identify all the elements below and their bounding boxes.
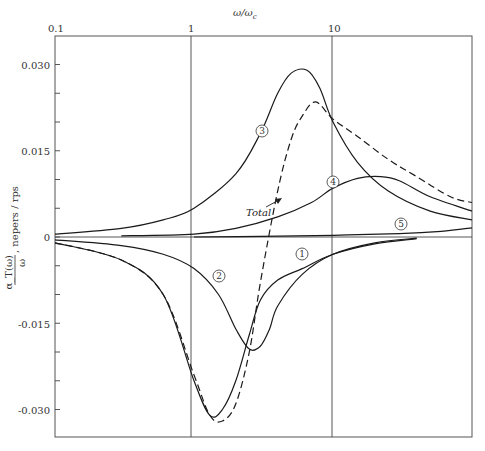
x-tick-labels: 0.1 1 10 bbox=[48, 23, 341, 34]
y-axis-units: , nepers / rps bbox=[9, 186, 20, 253]
y-ticks bbox=[55, 65, 60, 410]
y-tick-labels: 0.030 0.015 0 -0.015 -0.030 bbox=[18, 60, 50, 416]
marker-3: 3 bbox=[256, 125, 268, 137]
x-tick-label: 10 bbox=[328, 23, 341, 34]
total-label: Total bbox=[246, 207, 271, 218]
x-tick-label: 1 bbox=[188, 23, 194, 34]
y-axis-numerator: α_T(ω) bbox=[3, 255, 15, 289]
y-tick-label: -0.030 bbox=[18, 405, 50, 416]
y-axis-denominator: ω bbox=[16, 259, 27, 267]
svg-text:5: 5 bbox=[398, 219, 404, 229]
marker-4: 4 bbox=[327, 176, 339, 188]
svg-text:4: 4 bbox=[330, 177, 336, 187]
chart-canvas: ω/ωc 0.1 1 10 0.030 0.015 0 -0.015 -0.03… bbox=[0, 0, 485, 451]
y-axis-title: α_T(ω) ω , nepers / rps bbox=[3, 186, 27, 289]
x-tick-label: 0.1 bbox=[48, 23, 64, 34]
y-tick-label: 0 bbox=[44, 232, 50, 243]
svg-text:3: 3 bbox=[259, 126, 265, 136]
series-5-line bbox=[194, 228, 472, 237]
x-axis-title: ω/ωc bbox=[233, 7, 257, 21]
series-total-line bbox=[55, 102, 472, 422]
svg-text:2: 2 bbox=[216, 271, 222, 281]
y-tick-label: 0.015 bbox=[21, 146, 50, 157]
y-tick-label: 0.030 bbox=[21, 60, 50, 71]
y-tick-label: -0.015 bbox=[18, 319, 50, 330]
marker-1: 1 bbox=[296, 248, 308, 260]
series-group bbox=[55, 69, 472, 422]
marker-5: 5 bbox=[395, 218, 407, 230]
marker-2: 2 bbox=[213, 270, 225, 282]
series-4-line bbox=[121, 176, 472, 235]
total-annotation: Total bbox=[246, 198, 282, 218]
svg-text:1: 1 bbox=[299, 249, 305, 259]
